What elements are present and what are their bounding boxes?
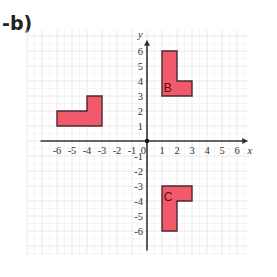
- x-tick-label: -6: [53, 145, 62, 156]
- x-tick-label: 3: [189, 145, 194, 156]
- y-tick-label: -2: [134, 166, 143, 177]
- x-tick-label: 6: [234, 145, 239, 156]
- coordinate-grid: BC -6-5-4-3-2-1123456654321-1-2-3-4-5-60…: [0, 0, 277, 277]
- y-tick-label: 1: [138, 121, 143, 132]
- y-tick-label: 6: [138, 46, 143, 57]
- x-tick-label: -3: [98, 145, 107, 156]
- x-axis-label: x: [247, 145, 253, 156]
- shape-c-label: C: [164, 190, 173, 204]
- y-tick-label: 5: [138, 61, 143, 72]
- origin-label: 0: [141, 145, 146, 156]
- x-axis-arrow-icon: [242, 138, 248, 144]
- y-tick-label: 2: [138, 106, 143, 117]
- x-tick-label: -4: [83, 145, 92, 156]
- y-tick-label: 3: [138, 91, 143, 102]
- y-axis-label: y: [137, 29, 143, 40]
- x-tick-label: -2: [113, 145, 122, 156]
- origin-dot: [145, 139, 149, 143]
- shape-b-label: B: [164, 81, 172, 95]
- y-axis-arrow-icon: [144, 40, 150, 46]
- x-tick-label: 1: [159, 145, 164, 156]
- y-tick-label: -3: [134, 181, 143, 192]
- y-tick-label: -5: [134, 211, 143, 222]
- x-tick-label: 2: [174, 145, 179, 156]
- y-tick-label: -6: [134, 226, 143, 237]
- x-tick-label: 4: [204, 145, 210, 156]
- y-tick-label: -4: [134, 196, 143, 207]
- x-tick-label: 5: [219, 145, 224, 156]
- x-tick-label: -5: [68, 145, 77, 156]
- y-tick-label: 4: [138, 76, 144, 87]
